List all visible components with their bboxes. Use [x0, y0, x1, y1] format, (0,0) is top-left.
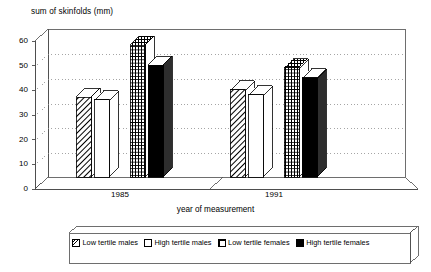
- legend: Low tertile males High tertile males Low…: [0, 0, 431, 272]
- legend-item-high-tertile-males[interactable]: High tertile males: [144, 239, 212, 247]
- legend-items: Low tertile males High tertile males Low…: [72, 239, 375, 247]
- legend-label: High tertile females: [306, 239, 369, 246]
- chart-root: sum of skinfolds (mm): [0, 0, 431, 272]
- legend-label: Low tertile females: [228, 239, 290, 246]
- legend-swatch-diagonal-hatch-icon: [72, 239, 80, 247]
- legend-item-low-tertile-males[interactable]: Low tertile males: [72, 239, 138, 247]
- legend-swatch-solid-black-icon: [296, 239, 304, 247]
- legend-item-low-tertile-females[interactable]: Low tertile females: [218, 239, 290, 247]
- legend-item-high-tertile-females[interactable]: High tertile females: [296, 239, 370, 247]
- legend-label: Low tertile males: [83, 239, 138, 246]
- legend-swatch-cross-hatch-icon: [218, 239, 226, 247]
- legend-label: High tertile males: [154, 239, 211, 246]
- legend-swatch-open-white-icon: [144, 239, 152, 247]
